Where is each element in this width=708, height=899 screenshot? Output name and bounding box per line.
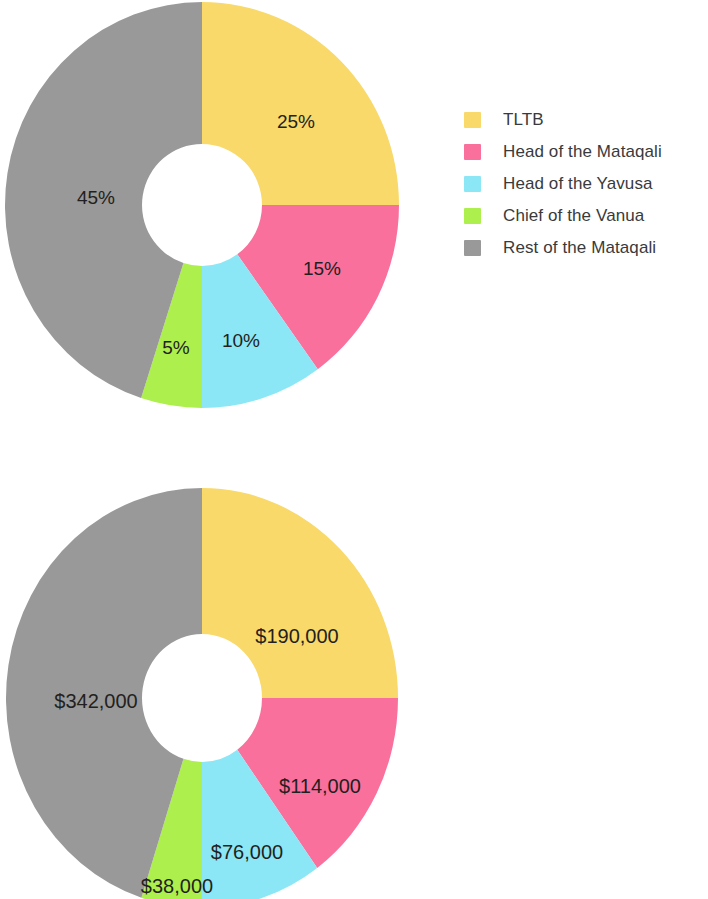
legend-label-tltb: TLTB	[503, 110, 544, 130]
donut-percent-svg: 25%15%10%5%45%	[4, 2, 400, 408]
legend-label-rest-mataqali: Rest of the Mataqali	[503, 238, 656, 258]
donut-slice[interactable]	[202, 488, 398, 698]
legend-percent: TLTB Head of the Mataqali Head of the Ya…	[464, 104, 662, 264]
legend-item-rest-mataqali[interactable]: Rest of the Mataqali	[464, 232, 662, 264]
legend-item-head-mataqali[interactable]: Head of the Mataqali	[464, 136, 662, 168]
slice-value-label: $342,000	[54, 690, 137, 712]
legend-swatch-tltb	[464, 112, 481, 128]
legend-item-tltb[interactable]: TLTB	[464, 104, 662, 136]
legend-swatch-head-yavusa	[464, 176, 481, 192]
donut-money-svg: $190,000$114,000$76,000$38,000$342,000	[12, 488, 404, 899]
chart-money-block: $190,000$114,000$76,000$38,000$342,000 T…	[0, 460, 708, 899]
slice-value-label: 45%	[77, 187, 115, 208]
legend-label-head-mataqali: Head of the Mataqali	[503, 142, 662, 162]
slice-value-label: 10%	[222, 330, 260, 351]
slice-value-label: $190,000	[255, 625, 338, 647]
slice-value-label: 15%	[303, 258, 341, 279]
slice-value-label: 25%	[277, 111, 315, 132]
chart-percent-block: 25%15%10%5%45% TLTB Head of the Mataqali…	[0, 0, 708, 450]
legend-swatch-chief-vanua	[464, 208, 481, 224]
slice-value-label: $76,000	[211, 841, 283, 863]
legend-swatch-rest-mataqali	[464, 240, 481, 256]
donut-chart-percent: 25%15%10%5%45%	[4, 2, 400, 408]
figure-root: 25%15%10%5%45% TLTB Head of the Mataqali…	[0, 0, 708, 899]
slice-value-label: 5%	[162, 337, 190, 358]
slice-value-label: $38,000	[141, 875, 213, 897]
legend-item-head-yavusa[interactable]: Head of the Yavusa	[464, 168, 662, 200]
legend-label-chief-vanua: Chief of the Vanua	[503, 206, 644, 226]
legend-item-chief-vanua[interactable]: Chief of the Vanua	[464, 200, 662, 232]
donut-slice[interactable]	[202, 2, 399, 205]
donut-chart-money: $190,000$114,000$76,000$38,000$342,000	[12, 488, 404, 899]
legend-swatch-head-mataqali	[464, 144, 481, 160]
slice-value-label: $114,000	[279, 775, 361, 797]
legend-label-head-yavusa: Head of the Yavusa	[503, 174, 653, 194]
